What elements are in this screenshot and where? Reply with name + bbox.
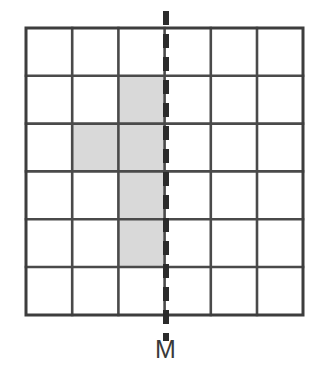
shaded-cell-r5c3 <box>118 219 164 267</box>
mirror-line-label: M <box>2 334 327 364</box>
shaded-cell-r3c3 <box>118 124 164 172</box>
grid-diagram <box>0 0 327 369</box>
shaded-cell-r3c2 <box>72 124 118 172</box>
shaded-cell-r2c3 <box>118 76 164 124</box>
symmetry-grid-figure: M <box>0 0 327 369</box>
shaded-cell-r4c3 <box>118 171 164 219</box>
